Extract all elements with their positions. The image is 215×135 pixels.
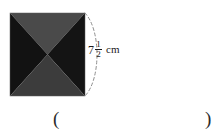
fraction-denominator: 2 <box>95 50 102 59</box>
answer-blank[interactable]: ( ) <box>0 104 215 135</box>
dimension-fraction: 1 2 <box>95 40 102 60</box>
answer-paren-close: ) <box>205 109 211 128</box>
figure-area: 7 1 2 cm <box>0 0 215 100</box>
fraction-numerator: 1 <box>95 40 102 49</box>
dimension-label: 7 1 2 cm <box>88 40 119 60</box>
answer-paren-open: ( <box>53 109 59 128</box>
dimension-unit: cm <box>106 44 119 55</box>
dimension-whole-number: 7 <box>88 44 94 56</box>
